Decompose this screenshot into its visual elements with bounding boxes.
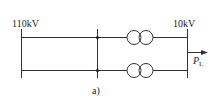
upper-transformer-icon xyxy=(127,31,153,45)
junction-dot-lower xyxy=(96,69,99,72)
lower-transformer-icon xyxy=(127,64,153,78)
load-symbol: P xyxy=(192,55,199,66)
load-subscript: L xyxy=(199,60,203,68)
right-bus-label: 10kV xyxy=(173,18,196,29)
load-label: PL xyxy=(192,55,203,68)
junction-dot-upper xyxy=(96,36,99,39)
left-bus-label: 110kV xyxy=(12,18,40,29)
power-diagram: 110kV 10kV PL a) xyxy=(0,0,217,105)
figure-caption: a) xyxy=(92,85,100,97)
load-arrow-icon xyxy=(201,50,208,55)
